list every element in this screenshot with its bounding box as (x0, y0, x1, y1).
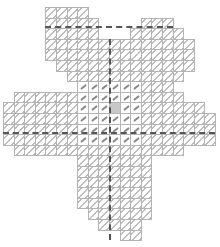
stitch-chart (0, 0, 220, 247)
center-line-vertical (109, 39, 111, 240)
grid-cell (173, 145, 185, 157)
center-line-horizontal (45, 26, 172, 28)
grid-cell (173, 71, 185, 83)
grid-cell (141, 208, 153, 220)
grid-cell (183, 60, 195, 72)
grid-cell (204, 134, 216, 146)
grid-cell (130, 230, 142, 242)
